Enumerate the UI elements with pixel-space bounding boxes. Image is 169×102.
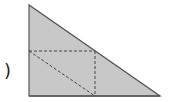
right-triangle-diagram xyxy=(0,0,169,102)
option-label-paren: ) xyxy=(4,62,11,80)
